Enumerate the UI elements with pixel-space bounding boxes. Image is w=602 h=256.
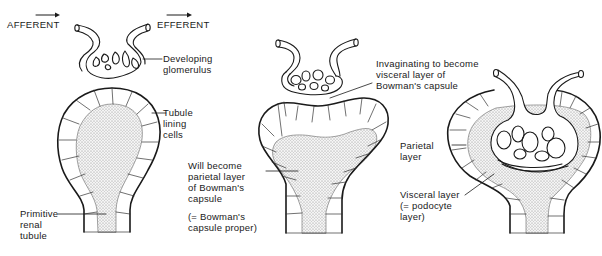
tubule-lining-cells-label: Tubule lining cells	[163, 107, 193, 140]
afferent-label: AFFERENT	[7, 19, 60, 30]
efferent-label: EFFERENT	[157, 19, 210, 30]
invaginating-glomerulus-shape	[276, 39, 358, 95]
parietal-layer-label: Parietal layer	[400, 140, 434, 162]
stage-3-diagram	[448, 70, 600, 234]
primitive-tubule-lumen	[76, 104, 142, 232]
afferent-arrow-icon	[36, 13, 60, 18]
visceral-layer-label: Visceral layer (= podocyte layer)	[400, 189, 460, 222]
will-become-parietal-label: Will become parietal layer of Bowman's c…	[188, 160, 245, 204]
stage-2-lumen	[273, 129, 377, 234]
efferent-arrow-icon	[167, 13, 192, 18]
developing-glomerulus-shape	[75, 24, 150, 78]
stage-2-diagram	[259, 39, 388, 233]
invaginating-label: Invaginating to become visceral layer of…	[376, 58, 479, 91]
primitive-renal-tubule-label: Primitive renal tubule	[20, 208, 58, 241]
diagram-canvas	[0, 0, 602, 256]
developing-glomerulus-label: Developing glomerulus	[163, 53, 213, 75]
bowmans-capsule-proper-label: (= Bowman's capsule proper)	[188, 211, 257, 233]
